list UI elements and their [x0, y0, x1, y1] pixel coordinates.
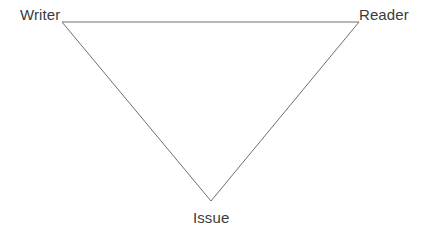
vertex-label-issue: Issue — [193, 209, 229, 226]
vertex-label-writer: Writer — [20, 6, 60, 23]
triangle-outline — [62, 22, 359, 201]
diagram-canvas: Writer Reader Issue — [0, 0, 424, 248]
vertex-label-reader: Reader — [359, 6, 409, 23]
